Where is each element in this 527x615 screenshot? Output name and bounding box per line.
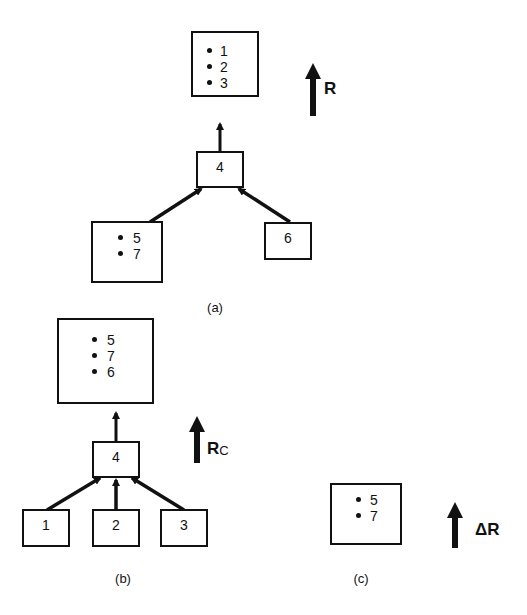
- panel-a-caption: (a): [195, 300, 235, 315]
- flow-label-rc-main: R: [207, 439, 219, 458]
- figure-canvas: 1 2 3 R 4 5 7 6 (a) 5 7 6 4 RC 1 2: [0, 0, 527, 615]
- panel-a-right-input-box: 6: [264, 222, 312, 260]
- panel-b-input-box-2: 2: [92, 509, 140, 547]
- panel-b-result-box: 5 7 6: [57, 318, 154, 404]
- panel-a-join-node: 4: [196, 151, 244, 188]
- flow-arrow-r-head: [305, 63, 321, 79]
- node-label: 4: [94, 449, 138, 465]
- list-item: 5: [93, 230, 161, 246]
- node-label: 6: [266, 230, 310, 246]
- panel-b-result-items: 5 7 6: [59, 332, 152, 380]
- flow-label-rc: RC: [207, 440, 229, 459]
- panel-a-result-items: 1 2 3: [193, 43, 257, 91]
- edges-layer: [0, 0, 527, 615]
- edge-1-to-4: [47, 478, 100, 510]
- node-label: 4: [198, 159, 242, 175]
- list-item: 2: [193, 59, 257, 75]
- panel-c-box: 5 7: [330, 483, 402, 545]
- edge-6-to-4: [239, 189, 290, 222]
- edge-3-to-4: [132, 478, 184, 510]
- list-item: 3: [193, 75, 257, 91]
- panel-b-caption: (b): [103, 571, 143, 586]
- list-item: 7: [93, 246, 161, 262]
- panel-a-left-input-box: 5 7: [91, 221, 163, 283]
- edge-57-to-4: [150, 189, 201, 222]
- panel-c-items: 5 7: [332, 492, 400, 524]
- flow-arrow-delta-r-head: [447, 502, 463, 518]
- panel-a-result-box: 1 2 3: [191, 31, 259, 97]
- list-item: 1: [193, 43, 257, 59]
- list-item: 5: [59, 332, 152, 348]
- flow-label-delta-r: ΔR: [475, 521, 500, 539]
- node-label: 1: [24, 517, 68, 533]
- node-label: 3: [162, 517, 206, 533]
- panel-b-input-box-1: 1: [22, 509, 70, 547]
- list-item: 5: [332, 492, 400, 508]
- panel-b-input-box-3: 3: [160, 509, 208, 547]
- list-item: 7: [332, 508, 400, 524]
- node-label: 2: [94, 517, 138, 533]
- panel-c-caption: (c): [341, 571, 381, 586]
- panel-a-left-input-items: 5 7: [93, 230, 161, 262]
- panel-c-edges: [447, 502, 463, 548]
- panel-b-join-node: 4: [92, 441, 140, 478]
- list-item: 6: [59, 364, 152, 380]
- flow-arrow-rc-head: [189, 416, 205, 432]
- flow-label-rc-sub: C: [219, 443, 228, 458]
- flow-label-r: R: [324, 80, 336, 98]
- list-item: 7: [59, 348, 152, 364]
